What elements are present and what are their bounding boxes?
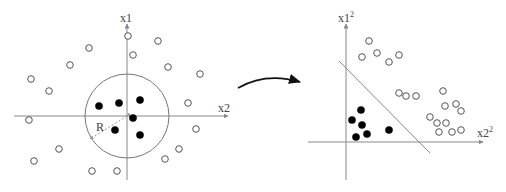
left-open-points xyxy=(26,33,204,175)
kernel-mapping-diagram: x1 x2 R x12 x22 xyxy=(0,0,506,192)
open-point xyxy=(458,127,465,134)
radius-label: R xyxy=(96,120,104,134)
open-point xyxy=(442,103,449,110)
open-point xyxy=(31,158,38,165)
right-plot: x12 x22 xyxy=(308,10,493,180)
filled-point xyxy=(136,96,143,103)
open-point xyxy=(46,88,53,95)
open-point xyxy=(114,168,121,175)
filled-point xyxy=(348,116,355,123)
open-point xyxy=(26,117,33,124)
open-point xyxy=(403,93,410,100)
open-point xyxy=(359,54,366,61)
open-point xyxy=(125,33,132,40)
open-point xyxy=(440,88,447,95)
open-point xyxy=(193,126,200,133)
filled-point xyxy=(136,131,143,138)
right-x-axis-label: x22 xyxy=(477,125,493,140)
open-point xyxy=(155,38,162,45)
open-point xyxy=(165,64,172,71)
open-point xyxy=(413,93,420,100)
open-point xyxy=(374,50,381,57)
open-point xyxy=(366,38,373,45)
filled-point xyxy=(129,114,136,121)
open-point xyxy=(449,129,456,136)
open-point xyxy=(436,129,443,136)
left-y-axis-label: x1 xyxy=(120,11,132,25)
left-x-axis-label: x2 xyxy=(218,101,230,115)
open-point xyxy=(396,52,403,59)
right-filled-points xyxy=(348,106,392,140)
left-plot: x1 x2 R xyxy=(14,11,230,180)
open-point xyxy=(453,101,460,108)
open-point xyxy=(56,146,63,153)
right-y-axis-label: x12 xyxy=(338,10,354,25)
open-point xyxy=(434,120,441,127)
open-point xyxy=(176,146,183,153)
filled-point xyxy=(363,130,370,137)
filled-point xyxy=(357,106,364,113)
right-open-points xyxy=(359,38,465,136)
open-point xyxy=(185,100,192,107)
open-point xyxy=(67,62,74,69)
filled-point xyxy=(385,126,392,133)
open-point xyxy=(427,114,434,121)
open-point xyxy=(386,59,393,66)
open-point xyxy=(89,168,96,175)
open-point xyxy=(86,45,93,52)
open-point xyxy=(458,108,465,115)
open-point xyxy=(28,76,35,83)
open-point xyxy=(162,156,169,163)
open-point xyxy=(443,120,450,127)
filled-point xyxy=(115,99,122,106)
mapping-arrow-icon xyxy=(238,78,300,88)
open-point xyxy=(197,71,204,78)
open-point xyxy=(396,90,403,97)
linear-separator xyxy=(339,61,430,153)
filled-point xyxy=(95,102,102,109)
open-point xyxy=(130,52,137,59)
filled-point xyxy=(111,126,118,133)
filled-point xyxy=(358,121,365,128)
filled-point xyxy=(352,133,359,140)
